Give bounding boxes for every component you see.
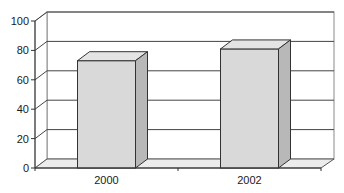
bar-chart: 020406080100 20002002 <box>0 0 344 193</box>
bar-side <box>279 40 291 168</box>
y-axis: 020406080100 <box>11 15 35 174</box>
bar-2000 <box>78 52 148 168</box>
y-tick-label: 40 <box>17 103 29 115</box>
x-axis: 20002002 <box>35 168 321 186</box>
y-tick-label: 60 <box>17 74 29 86</box>
side-wall <box>35 12 47 168</box>
bar-front <box>78 61 136 168</box>
bar-2002 <box>221 40 291 168</box>
y-tick-label: 20 <box>17 133 29 145</box>
bar-side <box>136 52 148 168</box>
x-category-label: 2000 <box>94 174 118 186</box>
y-tick-label: 100 <box>11 15 29 27</box>
x-category-label: 2002 <box>237 174 261 186</box>
bar-front <box>221 49 279 168</box>
y-tick-label: 80 <box>17 44 29 56</box>
y-tick-label: 0 <box>23 162 29 174</box>
